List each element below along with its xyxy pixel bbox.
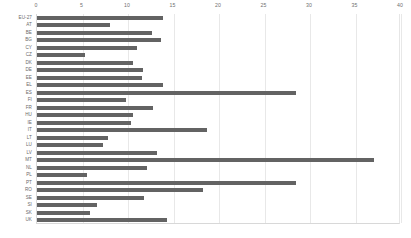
bar (37, 143, 103, 147)
y-axis-tick-label: UK (25, 217, 32, 222)
bar (37, 38, 161, 42)
bar-row (37, 202, 399, 209)
bar-row (37, 172, 399, 179)
bar (37, 16, 163, 20)
bar-row (37, 67, 399, 74)
bar-row (37, 217, 399, 224)
bar (37, 128, 207, 132)
bar (37, 113, 133, 117)
bar-row (37, 209, 399, 216)
bar-row (37, 119, 399, 126)
bar-row (37, 74, 399, 81)
bar-row (37, 142, 399, 149)
bar (37, 83, 163, 87)
y-axis-tick-label: FI (28, 97, 32, 102)
bar-row (37, 179, 399, 186)
bar-row (37, 164, 399, 171)
y-axis-tick-label: LV (27, 150, 32, 155)
bar (37, 121, 131, 125)
bar (37, 23, 110, 27)
bar-row (37, 127, 399, 134)
bar-row (37, 149, 399, 156)
x-axis-tick-label: 15 (170, 2, 176, 8)
bar (37, 31, 152, 35)
x-axis-tick-label: 40 (397, 2, 403, 8)
bar (37, 203, 97, 207)
bar (37, 218, 167, 222)
bar-row (37, 82, 399, 89)
bar-row (37, 44, 399, 51)
x-axis-tick-label: 0 (35, 2, 38, 8)
bar-row (37, 37, 399, 44)
y-axis-tick-label: EE (26, 75, 32, 80)
bar-row (37, 112, 399, 119)
x-axis-tick-label: 20 (215, 2, 221, 8)
y-axis-tick-label: LU (26, 142, 32, 147)
y-axis-tick-label: BG (25, 37, 32, 42)
bar-row (37, 29, 399, 36)
y-axis-tick-label: DE (25, 67, 32, 72)
y-axis-tick-label: NL (26, 165, 32, 170)
x-axis-tick-label: 35 (352, 2, 358, 8)
y-axis-tick-label: BE (26, 30, 32, 35)
y-axis-tick-label: CZ (26, 52, 32, 57)
bar (37, 173, 87, 177)
y-axis-tick-label: HU (25, 112, 32, 117)
y-axis-tick-label: PT (26, 180, 32, 185)
bar (37, 76, 142, 80)
y-axis-tick-label: SE (26, 195, 32, 200)
y-axis-category-labels: EU-27ATBEBGCYCZDKDEEEELESFIFRHUIEITLTLUL… (0, 14, 34, 224)
bar (37, 106, 153, 110)
bar (37, 196, 144, 200)
y-axis-tick-label: ES (26, 90, 32, 95)
bar-row (37, 187, 399, 194)
bar (37, 181, 296, 185)
bar (37, 61, 133, 65)
x-axis-tick-label: 5 (80, 2, 83, 8)
bar (37, 53, 85, 57)
bar-rows (37, 14, 399, 223)
y-axis-tick-label: AT (26, 22, 32, 27)
bar-row (37, 134, 399, 141)
bar-row (37, 22, 399, 29)
bar (37, 91, 296, 95)
y-axis-tick-label: CY (25, 45, 32, 50)
bar-row (37, 97, 399, 104)
y-axis-tick-label: PL (26, 172, 32, 177)
y-axis-tick-label: EL (26, 82, 32, 87)
y-axis-tick-label: EU-27 (18, 15, 32, 20)
y-axis-tick-label: RO (25, 187, 32, 192)
y-axis-tick-label: MT (25, 157, 32, 162)
x-axis-tick-label: 25 (261, 2, 267, 8)
bar-row (37, 14, 399, 21)
bar (37, 188, 203, 192)
y-axis-tick-label: FR (26, 105, 32, 110)
y-axis-tick-label: IE (27, 120, 32, 125)
bar (37, 158, 374, 162)
y-axis-tick-label: SK (26, 210, 32, 215)
bar-chart: EU-27ATBEBGCYCZDKDEEEELESFIFRHUIEITLTLUL… (0, 0, 411, 238)
bar-row (37, 157, 399, 164)
bar-row (37, 59, 399, 66)
bar-row (37, 52, 399, 59)
bar-row (37, 89, 399, 96)
bar (37, 136, 108, 140)
bar (37, 211, 90, 215)
bar (37, 68, 143, 72)
y-axis-tick-label: LT (27, 135, 32, 140)
y-axis-tick-label: IT (28, 127, 32, 132)
bar (37, 46, 137, 50)
bar-row (37, 194, 399, 201)
bar-row (37, 104, 399, 111)
y-axis-tick-label: DK (25, 60, 32, 65)
bar (37, 166, 147, 170)
y-axis-tick-label: SI (27, 202, 32, 207)
gridline (401, 14, 402, 223)
bar (37, 151, 157, 155)
x-axis-tick-label: 30 (306, 2, 312, 8)
plot-area (36, 14, 400, 224)
bar (37, 98, 126, 102)
x-axis-tick-label: 10 (124, 2, 130, 8)
